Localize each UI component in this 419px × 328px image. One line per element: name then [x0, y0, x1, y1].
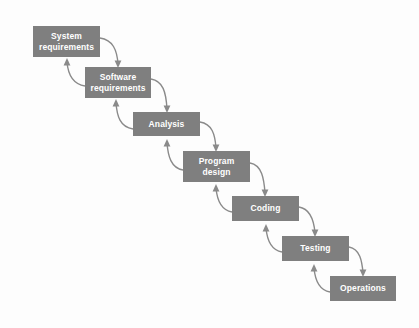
arrowhead-icon [311, 264, 318, 272]
arrowhead-icon [113, 99, 120, 107]
backward-arrow-program-design-to-analysis [164, 139, 183, 170]
stage-label-software-requirements: Software requirements [90, 72, 145, 94]
backward-arrow-testing-to-coding [263, 224, 282, 252]
forward-arrow-analysis-to-program-design [200, 122, 219, 152]
waterfall-diagram: System requirementsSoftware requirements… [0, 0, 419, 328]
stage-box-operations[interactable]: Operations [330, 276, 396, 301]
stage-label-testing: Testing [300, 243, 330, 254]
arrow-curve [250, 163, 265, 193]
arrow-curve [100, 38, 118, 64]
forward-arrow-program-design-to-coding [250, 163, 268, 197]
arrow-curve [216, 188, 232, 212]
stage-box-coding[interactable]: Coding [232, 196, 299, 221]
forward-arrow-software-requirements-to-analysis [151, 79, 170, 113]
arrow-curve [299, 207, 315, 233]
stage-box-testing[interactable]: Testing [282, 236, 349, 261]
stage-label-system-requirements: System requirements [39, 31, 94, 53]
arrow-curve [151, 79, 167, 109]
backward-arrow-analysis-to-software-requirements [113, 99, 133, 129]
stage-label-coding: Coding [251, 203, 281, 214]
stage-label-program-design: Program design [199, 156, 235, 178]
stage-box-analysis[interactable]: Analysis [133, 112, 200, 136]
arrow-curve [200, 122, 216, 148]
stage-label-operations: Operations [340, 283, 386, 294]
arrow-curve [116, 103, 133, 129]
arrowhead-icon [213, 184, 220, 192]
backward-arrow-operations-to-testing [311, 264, 330, 292]
backward-arrow-coding-to-program-design [213, 184, 232, 212]
arrow-curve [67, 62, 85, 86]
stage-box-program-design[interactable]: Program design [183, 151, 250, 182]
forward-arrow-testing-to-operations [349, 247, 366, 277]
arrow-curve [349, 247, 363, 273]
forward-arrow-coding-to-testing [299, 207, 318, 237]
arrowhead-icon [263, 224, 270, 232]
forward-arrow-system-requirements-to-software-requirements [100, 38, 121, 68]
stage-label-analysis: Analysis [149, 119, 185, 130]
backward-arrow-software-requirements-to-system-requirements [64, 58, 85, 86]
stage-box-system-requirements[interactable]: System requirements [33, 26, 100, 57]
arrowhead-icon [164, 139, 171, 147]
arrow-curve [266, 228, 282, 252]
arrow-curve [167, 143, 183, 170]
arrowhead-icon [64, 58, 71, 66]
arrow-curve [314, 268, 330, 292]
stage-box-software-requirements[interactable]: Software requirements [85, 67, 151, 98]
